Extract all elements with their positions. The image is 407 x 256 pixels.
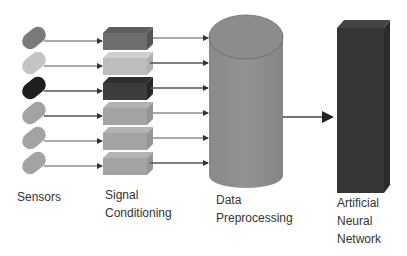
sensors-label-line-1: Sensors (17, 188, 61, 206)
signal-box-1 (103, 52, 153, 75)
sensors-group (19, 24, 49, 178)
data-preprocessing-label: Data Preprocessing (216, 191, 293, 227)
sensor-arrows (44, 41, 102, 166)
signal-box-5 (103, 152, 153, 175)
signal-conditioning-label-line-2: Conditioning (105, 204, 172, 222)
signal-conditioning-label-line-1: Signal (105, 186, 172, 204)
signal-box-4 (103, 127, 153, 150)
signal-box-0 (103, 27, 153, 50)
data-preprocessing-cylinder (209, 15, 283, 188)
output-arrow (283, 111, 334, 123)
sensor-4 (19, 124, 49, 153)
ann-label-line-1: Artificial (337, 194, 381, 212)
ann-box (337, 20, 390, 193)
signal-conditioning-label: Signal Conditioning (105, 186, 172, 222)
signal-boxes (103, 27, 153, 175)
sensors-label: Sensors (17, 188, 61, 206)
ann-label: Artificial Neural Network (337, 194, 381, 248)
sensor-2 (19, 74, 49, 103)
data-preprocessing-label-line-2: Preprocessing (216, 209, 293, 227)
signal-box-3 (103, 102, 153, 125)
sensor-0 (19, 24, 49, 53)
ann-label-line-2: Neural (337, 212, 381, 230)
sensor-1 (19, 49, 49, 78)
sensor-5 (19, 149, 49, 178)
data-preprocessing-label-line-1: Data (216, 191, 293, 209)
box-arrows (150, 38, 208, 163)
signal-box-2 (103, 77, 153, 100)
sensor-3 (19, 99, 49, 128)
ann-label-line-3: Network (337, 230, 381, 248)
